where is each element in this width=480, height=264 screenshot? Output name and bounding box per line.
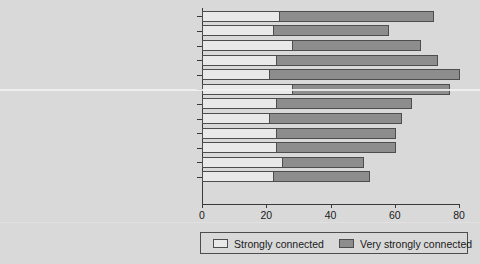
category-tick — [197, 60, 202, 61]
category-axis: NorthlandAucklandWaikatoBay of PlentyGis… — [0, 0, 480, 264]
category-tick — [197, 104, 202, 105]
category-tick — [197, 31, 202, 32]
category-tick — [197, 148, 202, 149]
chart-legend: Strongly connected Very strongly connect… — [200, 232, 468, 254]
stacked-bar-chart: NorthlandAucklandWaikatoBay of PlentyGis… — [0, 0, 480, 264]
category-tick — [197, 133, 202, 134]
x-axis-tick — [395, 204, 396, 208]
legend-entry-very-strongly-connected: Very strongly connected — [339, 237, 472, 250]
x-axis-tick-label: 0 — [199, 209, 205, 221]
legend-swatch-icon-strongly-connected — [213, 239, 228, 248]
category-tick — [197, 16, 202, 17]
category-tick — [197, 75, 202, 76]
category-tick — [197, 46, 202, 47]
legend-label-strongly-connected: Strongly connected — [234, 238, 324, 250]
x-axis-tick-label: 80 — [453, 209, 465, 221]
category-tick — [197, 177, 202, 178]
x-axis-tick-label: 60 — [389, 209, 401, 221]
legend-label-very-strongly-connected: Very strongly connected — [360, 238, 472, 250]
x-axis-tick — [331, 204, 332, 208]
x-axis-tick — [202, 204, 203, 208]
category-tick — [197, 119, 202, 120]
x-axis-tick-label: 20 — [260, 209, 272, 221]
x-axis-tick-label: 40 — [325, 209, 337, 221]
x-axis-tick — [459, 204, 460, 208]
x-axis-tick — [266, 204, 267, 208]
legend-entry-strongly-connected: Strongly connected — [213, 237, 324, 250]
legend-swatch-icon-very-strongly-connected — [339, 239, 354, 248]
category-tick — [197, 89, 202, 90]
category-tick — [197, 162, 202, 163]
